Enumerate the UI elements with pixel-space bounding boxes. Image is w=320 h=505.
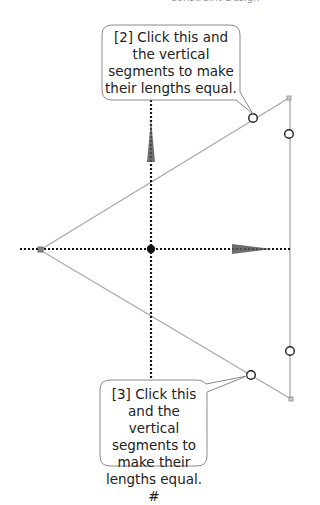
top-corner-handle[interactable] xyxy=(287,96,291,100)
right-arrow-icon xyxy=(232,244,272,254)
upper-vertical-handle[interactable] xyxy=(285,130,294,139)
lower-diagonal-constraint-handle[interactable] xyxy=(247,371,256,380)
lower-vertical-handle[interactable] xyxy=(286,347,295,356)
origin-point[interactable] xyxy=(147,245,155,253)
callout-3-text: [3] Click this and the vertical segments… xyxy=(102,386,206,505)
bottom-corner-handle[interactable] xyxy=(289,397,293,401)
upper-diagonal-constraint-handle[interactable] xyxy=(249,114,258,123)
apex-handle[interactable] xyxy=(38,247,43,252)
up-arrow-icon xyxy=(147,120,155,162)
callout-2-text: [2] Click this and the vertical segments… xyxy=(104,29,238,97)
